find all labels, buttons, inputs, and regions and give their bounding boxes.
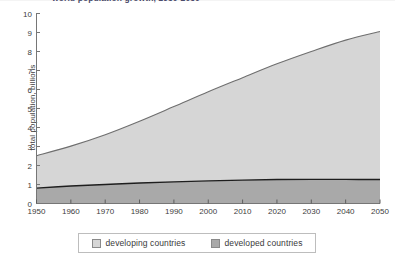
svg-text:2000: 2000 xyxy=(199,207,217,216)
population-area-chart: world population growth, 1950-2050 total… xyxy=(0,0,395,260)
svg-text:4: 4 xyxy=(28,124,33,133)
svg-text:2040: 2040 xyxy=(337,207,355,216)
svg-text:2050: 2050 xyxy=(371,207,389,216)
legend-swatch-developed xyxy=(211,239,220,248)
series-developing-countries xyxy=(37,32,381,204)
svg-text:1980: 1980 xyxy=(131,207,149,216)
svg-text:1970: 1970 xyxy=(96,207,114,216)
legend-label-developing: developing countries xyxy=(106,238,186,248)
svg-text:10: 10 xyxy=(23,10,32,19)
svg-text:1990: 1990 xyxy=(165,207,183,216)
svg-text:7: 7 xyxy=(28,67,33,76)
svg-text:2020: 2020 xyxy=(268,207,286,216)
plot-area: 012345678910 195019601970198019902000201… xyxy=(0,0,395,232)
svg-text:2030: 2030 xyxy=(302,207,320,216)
svg-text:1950: 1950 xyxy=(28,207,46,216)
svg-text:2: 2 xyxy=(28,162,33,171)
svg-text:3: 3 xyxy=(28,143,33,152)
svg-text:8: 8 xyxy=(28,48,33,57)
legend-item-developing[interactable]: developing countries xyxy=(92,238,186,248)
legend-swatch-developing xyxy=(92,239,101,248)
svg-text:5: 5 xyxy=(28,105,33,114)
svg-text:6: 6 xyxy=(28,86,33,95)
legend-label-developed: developed countries xyxy=(225,238,303,248)
chart-legend: developing countries developed countries xyxy=(78,233,316,253)
svg-text:1: 1 xyxy=(28,181,33,190)
legend-item-developed[interactable]: developed countries xyxy=(211,238,303,248)
svg-text:9: 9 xyxy=(28,29,33,38)
svg-text:1960: 1960 xyxy=(62,207,80,216)
svg-text:2010: 2010 xyxy=(234,207,252,216)
